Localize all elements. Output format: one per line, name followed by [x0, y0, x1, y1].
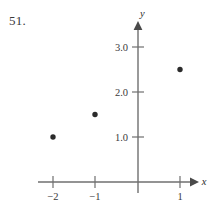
x-axis-label: x — [201, 176, 207, 187]
scatter-plot: −2 −1 1 3.0 2.0 1.0 x y — [0, 0, 214, 210]
y-axis-arrow-icon — [134, 21, 143, 30]
x-tick-label: 1 — [177, 191, 182, 202]
y-tick-label: 3.0 — [115, 42, 128, 53]
figure-container: 51. −2 −1 1 3.0 2.0 1.0 x y — [0, 0, 214, 210]
y-axis-label: y — [139, 8, 145, 19]
data-point — [92, 112, 97, 117]
data-point — [50, 134, 55, 139]
y-tick-label: 1.0 — [115, 132, 128, 143]
x-tick-label: −2 — [47, 191, 58, 202]
x-tick-label: −1 — [89, 191, 100, 202]
y-tick-label: 2.0 — [115, 87, 128, 98]
x-axis-arrow-icon — [190, 178, 199, 187]
data-point — [177, 67, 182, 72]
